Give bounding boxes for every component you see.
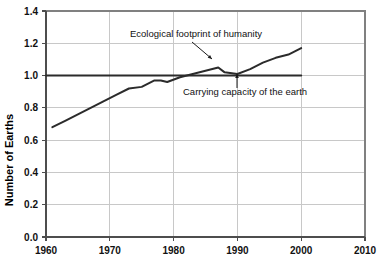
y-tick-label: 0.6: [24, 135, 38, 146]
carrying-capacity-annotation-text: Carrying capacity of the earth: [183, 86, 307, 97]
y-tick-label: 0.0: [24, 232, 38, 243]
y-tick-label: 0.4: [24, 167, 38, 178]
footprint-annotation-text: Ecological footprint of humanity: [130, 28, 262, 39]
y-tick-label: 1.4: [24, 6, 38, 17]
x-tick-label: 1960: [35, 245, 58, 256]
x-tick-label: 1980: [162, 245, 185, 256]
ecological-footprint-line-chart: 0.00.20.40.60.81.01.21.4 196019701980199…: [0, 0, 382, 267]
x-tick-label: 1990: [226, 245, 249, 256]
y-axis-title: Number of Earths: [3, 114, 15, 206]
y-tick-label: 0.8: [24, 102, 38, 113]
chart-background: [0, 0, 382, 267]
x-tick-label: 1970: [99, 245, 122, 256]
y-tick-label: 0.2: [24, 199, 38, 210]
x-tick-label: 2000: [290, 245, 313, 256]
x-tick-label: 2010: [354, 245, 377, 256]
y-tick-label: 1.2: [24, 38, 38, 49]
chart-container: 0.00.20.40.60.81.01.21.4 196019701980199…: [0, 0, 382, 267]
y-tick-label: 1.0: [24, 70, 38, 81]
